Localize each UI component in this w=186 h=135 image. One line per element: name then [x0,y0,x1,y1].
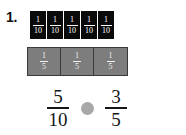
fraction-numerator: 1 [36,16,40,24]
fraction-glyph: 1 10 [50,16,61,35]
left-fraction: 5 10 [47,87,69,129]
fraction-denominator: 5 [42,63,46,71]
fifths-fraction-strip: 1 5 1 5 1 5 [27,47,128,76]
fraction-numerator: 1 [109,52,113,60]
fraction-denominator: 5 [110,110,122,129]
fraction-tile-fifth[interactable]: 1 5 [28,48,61,75]
fraction-glyph: 1 10 [84,16,95,35]
fraction-tile-tenth[interactable]: 1 10 [64,11,80,39]
fraction-denominator: 10 [102,27,110,35]
fraction-numerator: 3 [110,87,122,106]
fraction-tile-fifth[interactable]: 1 5 [94,48,127,75]
fraction-tile-tenth[interactable]: 1 10 [81,11,97,39]
fraction-denominator: 5 [109,63,113,71]
fraction-comparison-worksheet: 1. 1 10 1 10 1 10 1 [0,0,186,135]
fraction-tile-tenth[interactable]: 1 10 [30,11,46,39]
fraction-denominator: 10 [51,27,59,35]
fraction-tile-tenth[interactable]: 1 10 [98,11,114,39]
fraction-denominator: 10 [68,27,76,35]
fraction-denominator: 5 [75,63,79,71]
fraction-denominator: 10 [34,27,42,35]
fraction-denominator: 10 [85,27,93,35]
fraction-glyph: 1 10 [33,16,44,35]
comparison-expression: 5 10 3 5 [47,86,127,130]
fraction-numerator: 1 [70,16,74,24]
fraction-numerator: 1 [104,16,108,24]
right-fraction: 3 5 [105,87,127,129]
comparison-answer-slot[interactable] [81,102,94,115]
fraction-numerator: 1 [87,16,91,24]
fraction-glyph: 1 10 [101,16,112,35]
fraction-tile-fifth[interactable]: 1 5 [61,48,94,75]
problem-number-label: 1. [6,10,17,24]
fraction-numerator: 1 [42,52,46,60]
fraction-numerator: 1 [75,52,79,60]
fraction-glyph: 1 10 [67,16,78,35]
fraction-glyph: 1 5 [73,52,81,71]
fraction-tile-tenth[interactable]: 1 10 [47,11,63,39]
fraction-glyph: 1 5 [40,52,48,71]
fraction-numerator: 1 [53,16,57,24]
tenths-fraction-strip: 1 10 1 10 1 10 1 10 [30,11,114,39]
fraction-glyph: 1 5 [107,52,115,71]
fraction-denominator: 10 [48,110,69,129]
fraction-numerator: 5 [52,87,64,106]
